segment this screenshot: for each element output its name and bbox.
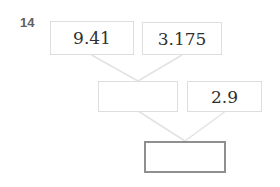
edge-midleft-to-bottom (138, 111, 185, 141)
edge-topleft-to-midleft (92, 55, 139, 81)
value-box-mid-right: 2.9 (187, 81, 262, 112)
edge-midright-to-bottom (185, 112, 225, 141)
answer-box-bottom (144, 141, 226, 173)
answer-box-middle (98, 81, 178, 112)
value-box-top-right: 3.175 (142, 22, 222, 55)
edge-topright-to-midleft (138, 55, 182, 81)
value-box-top-left: 9.41 (50, 21, 134, 55)
problem-number: 14 (20, 15, 34, 30)
worksheet-diagram: 14 9.41 3.175 2.9 (0, 0, 280, 187)
